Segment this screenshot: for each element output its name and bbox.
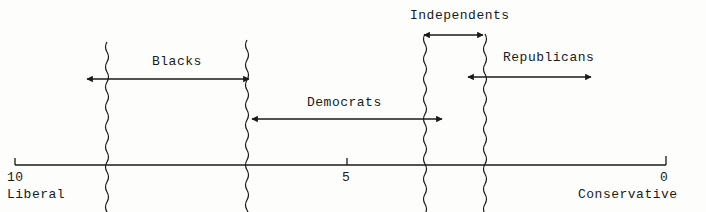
tick-label-5: 5 (342, 170, 350, 185)
scale-axis (15, 156, 666, 165)
boundary-line-3 (424, 34, 427, 212)
independents-label: Independents (410, 8, 510, 23)
democrats-label: Democrats (307, 95, 382, 110)
tick-label-0: 0 (660, 170, 668, 185)
boundary-line-2 (246, 40, 249, 212)
republicans-label: Republicans (503, 50, 594, 65)
blacks-label: Blacks (152, 54, 202, 69)
liberal-label: Liberal (7, 187, 65, 202)
boundary-line-4 (484, 34, 487, 212)
conservative-label: Conservative (578, 187, 678, 202)
tick-label-10: 10 (7, 170, 24, 185)
boundary-line-1 (106, 42, 109, 212)
